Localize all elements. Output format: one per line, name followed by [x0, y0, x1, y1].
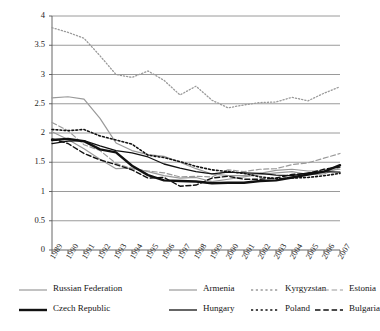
legend-label: Bulgaria: [349, 303, 380, 313]
legend-item-bulgaria[interactable]: Bulgaria: [314, 302, 380, 314]
legend-swatch-icon: [250, 282, 280, 294]
y-tick-label: 3: [23, 69, 45, 79]
legend-label: Estonia: [349, 283, 376, 293]
legend-swatch-icon: [168, 302, 198, 314]
legend-swatch-icon: [18, 302, 48, 314]
y-tick-label: 2: [23, 127, 45, 137]
legend-swatch-icon: [168, 282, 198, 294]
legend-item-armenia[interactable]: Armenia: [168, 282, 235, 294]
y-tick-label: 1.5: [23, 156, 45, 166]
y-tick-label: 3.5: [23, 39, 45, 49]
legend-swatch-icon: [250, 302, 280, 314]
legend-swatch-icon: [314, 282, 344, 294]
legend-row-1: Russian FederationArmeniaKyrgyzstanEston…: [18, 278, 368, 298]
legend-item-estonia[interactable]: Estonia: [314, 282, 376, 294]
y-tick-label: 2.5: [23, 98, 45, 108]
y-tick-label: 4: [23, 10, 45, 20]
series-line-russian-federation: [52, 132, 340, 182]
legend-row-2: Czech RepublicHungaryPolandBulgaria: [18, 298, 368, 318]
legend-item-russian-federation[interactable]: Russian Federation: [18, 282, 122, 294]
legend-label: Russian Federation: [53, 283, 122, 293]
legend-label: Hungary: [203, 303, 235, 313]
y-tick-label: 0: [23, 244, 45, 254]
gridlines: [52, 16, 340, 221]
legend-swatch-icon: [18, 282, 48, 294]
legend-label: Czech Republic: [53, 303, 110, 313]
chart-legend: Russian FederationArmeniaKyrgyzstanEston…: [18, 278, 368, 322]
legend-label: Armenia: [203, 283, 235, 293]
series-line-kyrgyzstan: [52, 28, 340, 108]
legend-item-hungary[interactable]: Hungary: [168, 302, 235, 314]
y-tick-label: 1: [23, 186, 45, 196]
series-line-czech-republic: [52, 139, 340, 183]
legend-swatch-icon: [314, 302, 344, 314]
legend-label: Poland: [285, 303, 310, 313]
y-tick-label: 0.5: [23, 215, 45, 225]
legend-item-czech-republic[interactable]: Czech Republic: [18, 302, 110, 314]
legend-item-poland[interactable]: Poland: [250, 302, 310, 314]
